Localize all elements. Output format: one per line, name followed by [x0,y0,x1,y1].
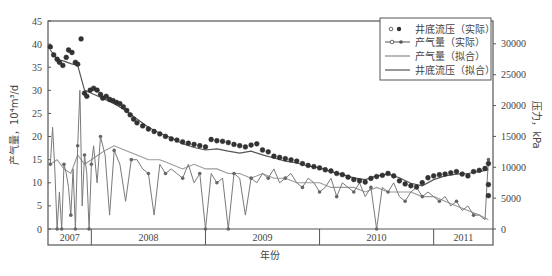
right-tick-label: 30000 [501,38,526,49]
pressure-actual-marker [283,156,288,161]
gas-actual-marker [266,176,270,180]
pressure-actual-marker [420,180,425,185]
chart-canvas: 051015202530354045 050001000015000200002… [0,0,552,276]
gas-actual-marker [455,199,459,203]
pressure-actual-marker [163,134,168,139]
pressure-actual-marker [243,145,248,150]
gas-actual-marker [87,227,91,231]
right-tick-label: 0 [501,224,506,235]
gas-actual-marker [472,213,476,217]
pressure-actual-marker [386,171,391,176]
gas-actual-marker [249,176,253,180]
pressure-actual-marker [60,63,65,68]
pressure-actual-marker [70,50,75,55]
pressure-actual-marker [323,167,328,172]
gas-actual-marker [99,135,103,139]
legend-label: 井底流压（实际） [415,23,495,35]
pressure-actual-marker [477,168,482,173]
pressure-actual-marker [266,149,271,154]
left-tick-label: 30 [32,85,42,96]
year-label: 2011 [454,232,474,243]
pressure-actual-marker [486,182,491,187]
x-axis-title: 年份 [260,249,280,261]
pressure-actual-marker [75,62,80,67]
year-label: 2009 [253,232,273,243]
legend: 井底流压（实际） 产气量（实际） 产气量（拟合） 井底流压（拟合） [380,18,495,80]
pressure-actual-marker [374,174,379,179]
pressure-actual-marker [84,94,89,99]
gas-actual-marker [83,153,87,157]
pressure-actual-marker [300,161,305,166]
right-tick-label: 20000 [501,100,526,111]
pressure-actual-marker [311,164,316,169]
pressure-actual-marker [260,148,265,153]
gas-actual-marker [164,172,168,176]
pressure-actual-marker [397,178,402,183]
left-tick-label: 5 [37,200,42,211]
gas-actual-marker [90,162,94,166]
pressure-actual-marker [272,154,277,159]
pressure-actual-marker [437,172,442,177]
pressure-actual-marker [414,185,419,190]
pressure-actual-marker [471,169,476,174]
pressure-actual-marker [329,169,334,174]
gas-actual-marker [215,181,219,185]
pressure-actual-marker [408,183,413,188]
year-label: 2010 [367,232,387,243]
pressure-actual-marker [391,174,396,179]
gas-actual-marker [112,149,116,153]
pressure-actual-marker [169,136,174,141]
right-tick-label: 25000 [501,69,526,80]
pressure-actual-marker [64,55,69,60]
right-tick-label: 15000 [501,131,526,142]
pressure-actual-marker [465,174,470,179]
pressure-actual-marker [180,140,185,145]
pressure-actual-marker [79,36,84,41]
left-tick-label: 10 [32,177,42,188]
pressure-actual-marker [351,177,356,182]
pressure-actual-marker [357,178,362,183]
pressure-actual-marker [48,45,53,50]
pressure-actual-marker [232,142,237,147]
year-label: 2007 [60,232,80,243]
left-tick-label: 45 [32,16,42,27]
pressure-actual-marker [51,53,56,58]
pressure-actual-marker [140,124,145,129]
gas-actual-marker [352,190,356,194]
gas-actual-marker [74,227,78,231]
gas-actual-marker [232,172,236,176]
gas-actual-marker [420,195,424,199]
pressure-actual-marker [369,176,374,181]
gas-actual-marker [301,186,305,190]
gas-actual-marker [226,227,230,231]
pressure-actual-marker [203,145,208,150]
pressure-actual-marker [128,112,133,117]
pressure-actual-marker [486,193,491,198]
pressure-actual-marker [95,88,100,93]
hollow-circle-marker-icon [389,27,393,31]
gas-actual-marker [129,158,133,162]
right-tick-label: 10000 [501,162,526,173]
circle-marker-icon [399,40,403,44]
gas-actual-marker [375,227,379,231]
pressure-actual-marker [146,127,151,132]
gas-actual-marker [386,190,390,194]
left-tick-label: 20 [32,131,42,142]
pressure-actual-marker [237,143,242,148]
gas-actual-marker [69,213,73,217]
year-label: 2008 [138,232,158,243]
pressure-actual-marker [403,182,408,187]
pressure-actual-marker [209,137,214,142]
pressure-actual-marker [214,138,219,143]
pressure-actual-marker [152,129,157,134]
pressure-actual-marker [486,161,491,166]
pressure-actual-marker [124,108,129,113]
pressure-actual-marker [431,174,436,179]
pressure-actual-marker [306,163,311,168]
gas-actual-marker [60,227,64,231]
gas-actual-marker [147,172,151,176]
pressure-actual-marker [249,143,254,148]
gas-actual-marker [76,144,80,148]
gas-actual-marker [438,199,442,203]
legend-label: 井底流压（拟合） [415,64,495,76]
